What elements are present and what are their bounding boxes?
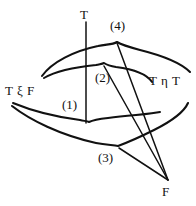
group-3-label: (3)	[98, 151, 113, 164]
group-4-label: (4)	[110, 19, 125, 32]
top-t-label: T	[80, 8, 88, 21]
left-term-label: T ξ F	[5, 84, 35, 97]
diagram-canvas: T (4) (2) (1) (3) T ξ F T η T F	[0, 0, 196, 206]
diagram-strokes	[0, 0, 196, 206]
bottom-f-label: F	[162, 185, 170, 198]
group-2-label: (2)	[95, 71, 110, 84]
group-1-label: (1)	[62, 98, 77, 111]
line-3-to-f	[119, 148, 168, 180]
brace-3-outer-lower	[12, 103, 188, 146]
right-term-label: T η T	[149, 74, 180, 87]
